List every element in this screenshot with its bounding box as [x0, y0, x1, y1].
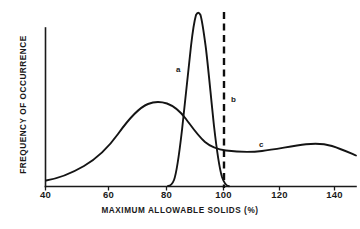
curve-label-b: b: [231, 95, 236, 104]
curve-c-broad-distribution: [46, 102, 356, 180]
y-axis-title: FREQUENCY OF OCCURRENCE: [19, 15, 28, 195]
x-tick-label-80: 80: [152, 189, 181, 200]
chart-figure: 40 60 80 100 120 140 a b c MAXIMUM ALLOW…: [0, 0, 360, 229]
x-tick-label-140: 140: [320, 189, 349, 200]
x-tick-label-40: 40: [31, 189, 60, 200]
x-axis-title: MAXIMUM ALLOWABLE SOLIDS (%): [0, 206, 360, 215]
x-tick-label-60: 60: [94, 189, 123, 200]
x-tick-label-100: 100: [209, 189, 238, 200]
x-tick-label-120: 120: [265, 189, 294, 200]
curve-label-c: c: [259, 140, 263, 149]
curve-a-narrow-peak: [168, 13, 229, 186]
curve-label-a: a: [176, 65, 180, 74]
